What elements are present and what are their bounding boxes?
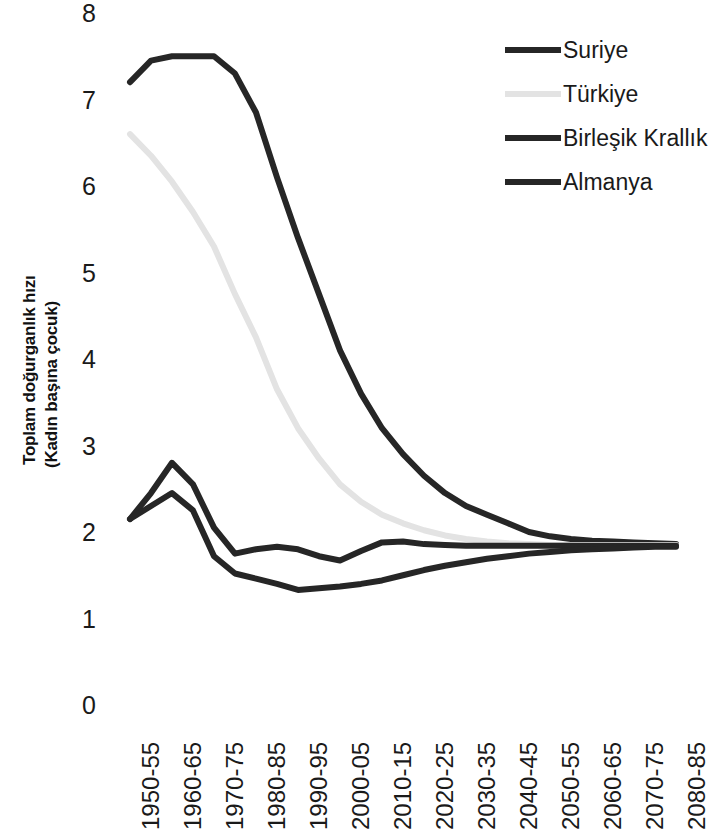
legend-swatch-icon [505,135,561,141]
legend-item-almanya[interactable]: Almanya [505,160,719,204]
legend-item-suriye[interactable]: Suriye [505,28,719,72]
x-axis-tick-2020-25: 2020-25 [433,742,457,830]
legend-label: Türkiye [563,83,638,106]
x-axis-tick-2080-85: 2080-85 [685,742,709,830]
x-axis-tick-2060-65: 2060-65 [601,742,625,830]
x-axis-tick-1950-55: 1950-55 [139,742,163,830]
x-axis-tick-2070-75: 2070-75 [643,742,667,830]
legend-item-birleşik-krallık[interactable]: Birleşik Krallık [505,116,719,160]
x-axis-tick-2000-05: 2000-05 [349,742,373,830]
legend-swatch-icon [505,179,561,185]
x-axis-tick-1990-95: 1990-95 [307,742,331,830]
x-axis-tick-2030-35: 2030-35 [475,742,499,830]
legend-label: Suriye [563,39,628,62]
legend-label: Birleşik Krallık [563,127,707,150]
chart-legend: SuriyeTürkiyeBirleşik KrallıkAlmanya [505,28,719,204]
legend-label: Almanya [563,171,652,194]
x-axis-tick-1960-65: 1960-65 [181,742,205,830]
chart-page: Toplam doğurganlık hızı (Kadın başına ço… [0,0,719,835]
legend-swatch-icon [505,47,561,53]
x-axis-tick-2050-55: 2050-55 [559,742,583,830]
x-axis-tick-2010-15: 2010-15 [391,742,415,830]
legend-swatch-icon [505,91,561,97]
x-axis-tick-labels: 1950-551960-651970-751980-851990-952000-… [0,712,719,835]
x-axis-tick-1970-75: 1970-75 [223,742,247,830]
x-axis-tick-2040-45: 2040-45 [517,742,541,830]
x-axis-tick-1980-85: 1980-85 [265,742,289,830]
legend-item-türkiye[interactable]: Türkiye [505,72,719,116]
